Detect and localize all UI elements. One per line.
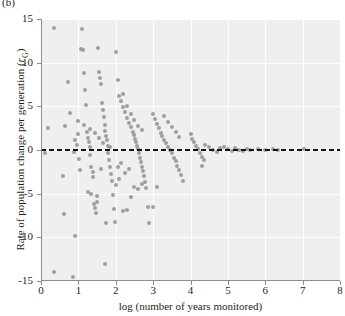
data-point: [157, 126, 161, 130]
y-tick: [37, 19, 41, 20]
data-point: [91, 175, 95, 179]
data-point: [129, 112, 133, 116]
data-point: [97, 70, 101, 74]
x-axis-title: log (number of years monitored): [41, 300, 340, 312]
data-point: [141, 169, 145, 173]
y-axis-title: Rate of population change per generation…: [14, 25, 29, 275]
scatter-plot-area: [41, 19, 340, 281]
data-point: [123, 110, 127, 114]
data-point: [81, 48, 85, 52]
x-tick-label: 6: [255, 284, 275, 296]
data-point: [75, 143, 79, 147]
data-point: [125, 208, 129, 212]
data-point: [99, 82, 103, 86]
data-point: [98, 76, 102, 80]
data-point: [77, 157, 81, 161]
y-axis-title-symbol: r: [14, 58, 26, 62]
data-point: [121, 92, 125, 96]
data-point: [136, 187, 140, 191]
data-point: [68, 111, 72, 115]
data-point: [61, 174, 65, 178]
y-axis-title-subscript: G: [21, 52, 30, 58]
data-point: [95, 194, 99, 198]
data-point: [73, 138, 77, 142]
data-point: [129, 125, 133, 129]
y-tick-label: -15: [0, 274, 33, 286]
gridline-vertical: [340, 19, 341, 281]
data-point: [114, 50, 118, 54]
data-point: [105, 138, 109, 142]
data-point: [91, 170, 95, 174]
data-point: [140, 165, 144, 169]
data-point: [78, 168, 82, 172]
x-tick-label: 0: [31, 284, 51, 296]
data-point: [117, 177, 121, 181]
panel-label: (b): [2, 0, 15, 8]
data-point: [127, 167, 131, 171]
data-point: [114, 183, 118, 187]
data-point: [80, 27, 84, 31]
gridline-horizontal: [41, 19, 340, 20]
figure-panel: (b) 012345678151050-5-10-15 log (number …: [0, 0, 345, 316]
data-point: [125, 116, 129, 120]
data-point: [151, 205, 155, 209]
data-point: [82, 123, 86, 127]
y-tick: [37, 63, 41, 64]
data-point: [151, 112, 155, 116]
data-point: [155, 185, 159, 189]
data-point: [99, 167, 103, 171]
data-point: [108, 165, 112, 169]
y-tick: [37, 194, 41, 195]
data-point: [88, 153, 92, 157]
x-tick-label: 3: [143, 284, 163, 296]
gridline-horizontal: [41, 194, 340, 195]
data-point: [142, 174, 146, 178]
data-point: [43, 151, 47, 155]
data-point: [108, 145, 112, 149]
data-point: [103, 262, 107, 266]
data-point: [181, 179, 185, 183]
data-point: [139, 160, 143, 164]
data-point: [66, 80, 70, 84]
data-point: [63, 124, 67, 128]
y-tick: [37, 281, 41, 282]
data-point: [119, 161, 123, 165]
x-tick-label: 1: [68, 284, 88, 296]
data-point: [174, 130, 178, 134]
data-point: [174, 159, 178, 163]
data-point: [137, 151, 141, 155]
data-point: [123, 171, 127, 175]
data-point: [76, 132, 80, 136]
data-point: [140, 128, 144, 132]
data-point: [84, 103, 88, 107]
data-point: [111, 193, 115, 197]
data-point: [89, 192, 93, 196]
data-point: [94, 211, 98, 215]
data-point: [136, 124, 140, 128]
data-point: [52, 270, 56, 274]
y-axis-line: [41, 19, 42, 281]
data-point: [119, 99, 123, 103]
data-point: [107, 158, 111, 162]
data-point: [170, 151, 174, 155]
data-point: [88, 127, 92, 131]
y-tick: [37, 106, 41, 107]
data-point: [179, 173, 183, 177]
x-tick-label: 7: [293, 284, 313, 296]
x-tick-label: 5: [218, 284, 238, 296]
data-point: [170, 125, 174, 129]
data-point: [89, 165, 93, 169]
data-point: [95, 200, 99, 204]
data-point: [71, 275, 75, 279]
data-point: [101, 108, 105, 112]
data-point: [101, 141, 105, 145]
data-point: [177, 135, 181, 139]
data-point: [83, 88, 87, 92]
data-point: [202, 158, 206, 162]
x-tick-label: 8: [330, 284, 345, 296]
data-point: [96, 46, 100, 50]
data-point: [162, 114, 166, 118]
data-point: [166, 120, 170, 124]
data-point: [144, 186, 148, 190]
data-point: [46, 126, 50, 130]
